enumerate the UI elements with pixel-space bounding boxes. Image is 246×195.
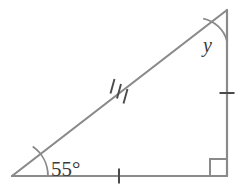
triangle-diagram: 55° y: [0, 0, 246, 195]
angle-label-55: 55°: [51, 157, 80, 181]
angle-label-y: y: [201, 34, 212, 57]
geometry-figure-canvas: 55° y: [0, 0, 246, 195]
